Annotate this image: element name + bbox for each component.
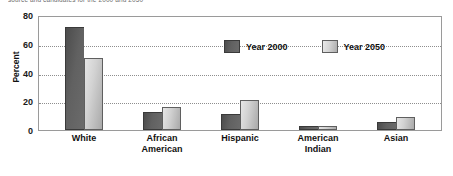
bar-american-indian-2050 [318, 126, 337, 130]
x-category-line: Hispanic [201, 133, 279, 144]
legend-label-2050: Year 2050 [344, 42, 386, 52]
x-category-line: American [279, 133, 357, 144]
y-tick-label: 60 [23, 40, 33, 50]
y-tick-label: 0 [28, 126, 33, 136]
x-category-american-indian: American Indian [279, 133, 357, 175]
legend-item-year-2000: Year 2000 [224, 40, 288, 53]
y-tick-label: 80 [23, 11, 33, 21]
legend-label-2000: Year 2000 [246, 42, 288, 52]
legend-item-year-2050: Year 2050 [322, 40, 386, 53]
bar-african-american-2050 [162, 107, 181, 130]
clipped-caption-strip: source and candidates for the 2000 and 2… [8, 0, 308, 4]
x-category-white: White [45, 133, 123, 175]
chart-legend: Year 2000 Year 2050 [224, 40, 385, 53]
x-category-line: Asian [357, 133, 435, 144]
legend-swatch-icon-2050 [322, 40, 338, 53]
x-category-line: American [123, 144, 201, 155]
bar-group-african-american [123, 17, 201, 130]
bar-series-container [39, 17, 441, 130]
y-tick-label: 40 [23, 69, 33, 79]
x-category-asian: Asian [357, 133, 435, 175]
bar-asian-2000 [377, 122, 396, 130]
bar-group-white [45, 17, 123, 130]
bar-asian-2050 [396, 117, 415, 130]
bar-white-2050 [84, 58, 103, 130]
x-category-hispanic: Hispanic [201, 133, 279, 175]
bar-african-american-2000 [143, 112, 162, 130]
bar-group-hispanic [201, 17, 279, 130]
x-category-african-american: African American [123, 133, 201, 175]
bar-group-american-indian [279, 17, 357, 130]
bar-american-indian-2000 [299, 126, 318, 130]
y-axis-title: Percent [11, 37, 21, 97]
x-category-line: White [45, 133, 123, 144]
x-axis: White African American Hispanic American… [39, 133, 441, 175]
legend-swatch-icon-2000 [224, 40, 240, 53]
x-category-line: African [123, 133, 201, 144]
bar-hispanic-2050 [240, 100, 259, 130]
bar-group-asian [357, 17, 435, 130]
bar-chart-figure: source and candidates for the 2000 and 2… [0, 0, 453, 176]
clipped-caption-text: source and candidates for the 2000 and 2… [8, 0, 308, 4]
bar-hispanic-2000 [221, 114, 240, 130]
bar-white-2000 [65, 27, 84, 130]
y-axis: Percent 80 60 40 20 0 [0, 16, 38, 131]
x-category-line: Indian [279, 144, 357, 155]
y-tick-label: 20 [23, 97, 33, 107]
